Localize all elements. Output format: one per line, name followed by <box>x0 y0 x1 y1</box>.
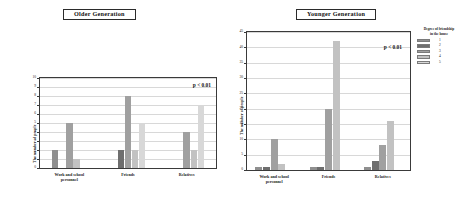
y-axis-tick-mark <box>244 47 247 48</box>
y-axis-tick-label: 45 <box>235 30 243 34</box>
y-axis-tick-mark <box>37 96 40 97</box>
y-axis-tick-mark <box>37 114 40 115</box>
bar <box>387 121 394 170</box>
legend-entry: 1 <box>415 38 463 42</box>
x-axis-tick-label: Friends <box>99 172 158 177</box>
legend-label: 5 <box>439 61 441 65</box>
bar <box>73 159 80 168</box>
y-axis-tick-label: 25 <box>235 92 243 96</box>
y-axis-tick-label: 3 <box>28 139 36 143</box>
panel-title-older: Older Generation <box>63 9 136 20</box>
y-axis-tick-label: 6 <box>28 112 36 116</box>
legend-entry: 4 <box>415 55 463 59</box>
y-axis-tick-label: 20 <box>235 107 243 111</box>
legend-label: 4 <box>439 55 441 59</box>
y-axis-tick-mark <box>244 170 247 171</box>
plot-area-older: p < 0.01 <box>39 77 217 169</box>
legend-swatch <box>417 61 430 65</box>
x-axis-tick-label: Relatives <box>356 174 410 179</box>
figure-root: Older Generation The number of people p … <box>0 0 467 202</box>
bar <box>125 96 132 168</box>
y-axis-tick-mark <box>37 132 40 133</box>
y-axis-tick-label: 40 <box>235 46 243 50</box>
bar <box>310 167 317 170</box>
bar <box>364 167 371 170</box>
y-axis-tick-mark <box>244 93 247 94</box>
y-axis-tick-mark <box>244 78 247 79</box>
y-axis-tick-mark <box>37 123 40 124</box>
bar <box>191 150 198 168</box>
bar <box>379 145 386 170</box>
y-axis-tick-mark <box>37 105 40 106</box>
legend-swatch <box>417 44 430 48</box>
bar <box>198 105 205 168</box>
bar <box>317 167 324 170</box>
bar <box>263 167 270 170</box>
y-axis-tick-label: 15 <box>235 122 243 126</box>
bar <box>271 139 278 170</box>
y-axis-tick-label: 10 <box>235 138 243 142</box>
y-axis-tick-mark <box>244 155 247 156</box>
y-axis-tick-label: 8 <box>28 94 36 98</box>
y-axis-tick-label: 1 <box>28 157 36 161</box>
legend: Degree of friendship in the house 12345 <box>415 27 463 66</box>
bar <box>372 161 379 170</box>
p-value-annotation-older: p < 0.01 <box>193 82 211 88</box>
plot-area-younger: p < 0.01 <box>246 31 411 171</box>
bar <box>255 167 262 170</box>
y-axis-title-younger: The number of people <box>240 96 244 135</box>
bar <box>325 109 332 170</box>
x-axis-tick-label: Work and school personnel <box>40 172 99 182</box>
bars-older <box>40 78 216 168</box>
y-axis-tick-label: 5 <box>28 121 36 125</box>
y-axis-tick-mark <box>244 124 247 125</box>
legend-entry: 5 <box>415 60 463 64</box>
bar <box>139 123 146 168</box>
legend-entry: 3 <box>415 49 463 53</box>
y-axis-tick-label: 35 <box>235 61 243 65</box>
y-axis-tick-label: 0 <box>28 166 36 170</box>
y-axis-tick-label: 0 <box>235 168 243 172</box>
y-axis-tick-label: 2 <box>28 148 36 152</box>
x-axis-tick-label: Relatives <box>157 172 216 177</box>
p-value-annotation-younger: p < 0.01 <box>384 44 402 50</box>
y-axis-tick-label: 7 <box>28 103 36 107</box>
y-axis-tick-mark <box>244 63 247 64</box>
legend-entry: 2 <box>415 44 463 48</box>
legend-swatch <box>417 55 430 59</box>
bar <box>118 150 125 168</box>
y-axis-tick-mark <box>37 168 40 169</box>
y-axis-tick-label: 9 <box>28 85 36 89</box>
y-axis-tick-mark <box>244 32 247 33</box>
bar <box>132 150 139 168</box>
bars-younger <box>247 32 410 170</box>
legend-swatch <box>417 39 430 43</box>
legend-title: Degree of friendship in the house <box>415 27 463 36</box>
legend-entries: 12345 <box>415 38 463 64</box>
bar <box>52 150 59 168</box>
y-axis-tick-label: 5 <box>235 153 243 157</box>
x-axis-tick-label: Friends <box>301 174 355 179</box>
bar <box>278 164 285 170</box>
y-axis-tick-mark <box>244 109 247 110</box>
y-axis-tick-mark <box>37 78 40 79</box>
x-axis-tick-label: Work and school personnel <box>247 174 301 184</box>
y-axis-tick-label: 4 <box>28 130 36 134</box>
y-axis-tick-mark <box>37 141 40 142</box>
y-axis-tick-mark <box>37 159 40 160</box>
panel-older-generation: Older Generation The number of people p … <box>0 0 234 202</box>
legend-label: 2 <box>439 44 441 48</box>
y-axis-tick-label: 30 <box>235 76 243 80</box>
legend-label: 3 <box>439 50 441 54</box>
legend-swatch <box>417 50 430 54</box>
y-axis-tick-mark <box>37 87 40 88</box>
panel-title-younger: Younger Generation <box>296 9 376 20</box>
bar <box>66 123 73 168</box>
bar <box>333 41 340 170</box>
bar <box>183 132 190 168</box>
legend-label: 1 <box>439 39 441 43</box>
y-axis-tick-mark <box>244 139 247 140</box>
y-axis-tick-mark <box>37 150 40 151</box>
y-axis-tick-label: 10 <box>28 76 36 80</box>
